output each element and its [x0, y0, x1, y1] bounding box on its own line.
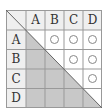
- circle-icon: [69, 55, 78, 64]
- mark-b-d: [83, 50, 102, 70]
- circle-icon: [88, 35, 97, 44]
- matchup-grid: A B C D A B C D: [6, 10, 102, 108]
- mark-a-b: [45, 30, 64, 50]
- circle-icon: [88, 55, 97, 64]
- circle-icon: [69, 35, 78, 44]
- mark-c-d: [83, 69, 102, 89]
- mark-b-c: [64, 50, 83, 70]
- mark-a-d: [83, 30, 102, 50]
- circle-icon: [88, 74, 97, 83]
- circle-icon: [50, 35, 59, 44]
- mark-a-c: [64, 30, 83, 50]
